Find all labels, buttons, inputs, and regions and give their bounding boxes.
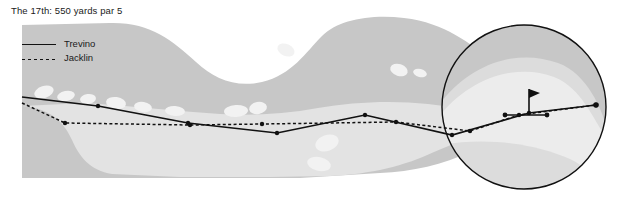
legend-label-trevino: Trevino (64, 38, 95, 49)
shot-node (96, 104, 100, 108)
legend-item-jacklin: Jacklin (22, 52, 142, 66)
bunker (275, 41, 296, 59)
shot-node (260, 122, 264, 126)
page-title: The 17th: 550 yards par 5 (11, 5, 122, 16)
shot-node (63, 121, 67, 125)
shot-node (450, 133, 454, 137)
legend-item-trevino: Trevino (22, 38, 142, 52)
ball-marker (545, 113, 550, 118)
legend-label-jacklin: Jacklin (64, 52, 93, 63)
golf-hole-figure: The 17th: 550 yards par 5 Trevino Jackli… (0, 0, 623, 203)
legend: Trevino Jacklin (22, 38, 142, 66)
shot-node (188, 123, 192, 127)
shot-node (468, 129, 472, 133)
ball-marker (503, 113, 508, 118)
hole-marker (593, 102, 599, 108)
shot-node (363, 113, 367, 117)
hole-diagram-canvas (0, 0, 623, 203)
legend-swatch-solid-line (22, 44, 56, 45)
shot-node (394, 120, 398, 124)
legend-swatch-dashed-line (22, 58, 56, 60)
shot-node (275, 131, 279, 135)
